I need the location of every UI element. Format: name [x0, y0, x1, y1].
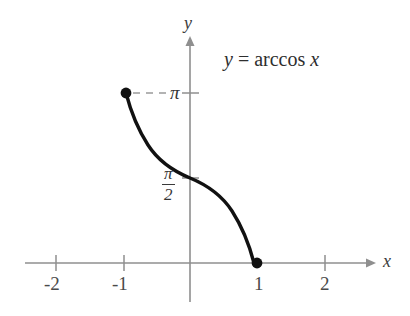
endpoint-dot-1-zero — [252, 258, 263, 269]
y-tick-label-half-pi: π 2 — [162, 165, 175, 204]
plot-canvas — [0, 0, 410, 316]
equation-equals: = — [238, 48, 249, 70]
x-tick-label-minus2: -2 — [44, 274, 60, 293]
endpoint-dot-minus1-pi — [121, 88, 132, 99]
equation-lhs: y — [224, 48, 233, 70]
x-axis-arrowhead — [366, 259, 376, 268]
half-pi-numerator: π — [162, 165, 175, 183]
x-axis-label: x — [383, 252, 391, 270]
y-tick-label-pi: π — [170, 83, 180, 102]
equation-annotation: y = arccos x — [224, 48, 319, 71]
x-tick-label-2: 2 — [320, 274, 330, 293]
equation-function: arccos — [254, 48, 305, 70]
x-tick-label-1: 1 — [254, 274, 264, 293]
equation-argument: x — [310, 48, 319, 70]
x-tick-label-minus1: -1 — [112, 274, 128, 293]
y-axis-arrowhead — [186, 36, 195, 46]
half-pi-denominator: 2 — [162, 186, 175, 204]
arccos-graph-figure: y = arccos x y x -2 -1 1 2 π π 2 — [0, 0, 410, 316]
y-axis-label: y — [184, 14, 192, 32]
